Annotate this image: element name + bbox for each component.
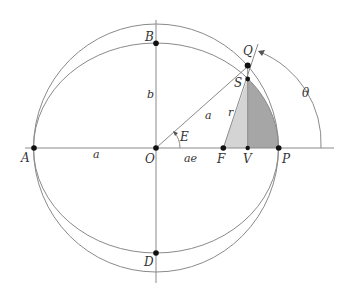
label-semi-major-a: a [93,149,100,160]
point-A [31,145,37,151]
label-angle-theta: θ [302,87,309,99]
diagram-canvas [0,0,351,296]
label-B: B [145,31,154,43]
point-F [221,145,227,151]
label-O: O [145,153,155,165]
label-D: D [144,256,154,268]
point-D [153,250,159,256]
label-V: V [243,153,252,165]
label-S: S [234,77,242,89]
point-V [246,146,250,150]
kepler-orbit-diagram: A B D O F V P Q S a b a ae r E θ [0,0,351,296]
point-O [153,145,159,151]
angle-theta-arrowhead-icon [258,50,265,56]
label-F: F [217,153,225,165]
point-P [276,145,282,151]
label-semi-minor-b: b [147,89,154,100]
point-S [245,77,250,82]
label-P: P [282,153,290,165]
label-r: r [228,107,233,118]
label-Q: Q [243,45,253,57]
label-A: A [21,152,30,164]
label-radius-a: a [205,110,212,121]
point-B [153,41,159,47]
label-angle-E: E [180,131,189,143]
point-Q [245,63,251,69]
label-ae: ae [184,153,197,164]
angle-E-arrowhead-icon [173,131,178,136]
